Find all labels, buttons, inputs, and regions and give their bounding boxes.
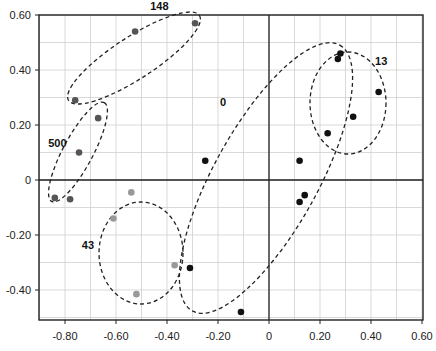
data-point-13 (350, 113, 357, 120)
group-label-148: 148 (150, 0, 168, 12)
data-point-13 (324, 130, 331, 137)
x-tick-label: -0.40 (154, 330, 179, 342)
x-tick-label: -0.20 (205, 330, 230, 342)
data-point-0 (296, 157, 303, 164)
data-point-500 (76, 149, 83, 156)
data-point-43 (171, 262, 178, 269)
x-tick-label: 0.40 (360, 330, 381, 342)
data-point-500 (67, 196, 74, 203)
y-tick-label: -0.20 (6, 229, 31, 241)
data-point-13 (375, 89, 382, 96)
data-point-148 (192, 20, 199, 27)
cluster-outline-148 (57, 0, 211, 118)
data-point-0 (296, 199, 303, 206)
x-tick-label: 0 (266, 330, 272, 342)
cluster-outline-13 (310, 52, 386, 154)
y-tick-label: 0.20 (10, 119, 31, 131)
data-point-0 (187, 265, 194, 272)
grid-lines (39, 15, 423, 320)
group-label-500: 500 (48, 137, 66, 149)
y-tick-label: -0.40 (6, 284, 31, 296)
cluster-outline-0 (147, 20, 385, 336)
data-point-0 (202, 157, 209, 164)
group-label-0: 0 (220, 96, 226, 108)
x-tick-label: 0.20 (309, 330, 330, 342)
data-point-43 (133, 291, 140, 298)
y-tick-label: 0 (25, 174, 31, 186)
data-point-500 (52, 195, 59, 202)
group-label-13: 13 (375, 55, 387, 67)
x-tick-label: -0.60 (103, 330, 128, 342)
plot-frame (39, 15, 423, 320)
data-point-13 (337, 50, 344, 57)
data-point-148 (132, 28, 139, 35)
axis-ticks: -0.80-0.60-0.40-0.2000.200.400.600.600.4… (6, 9, 433, 342)
data-point-0 (238, 309, 245, 316)
x-tick-label: 0.60 (411, 330, 432, 342)
data-point-148 (72, 97, 79, 104)
data-point-500 (95, 115, 102, 122)
y-tick-label: 0.60 (10, 9, 31, 21)
data-point-43 (110, 215, 117, 222)
y-tick-label: 0.40 (10, 64, 31, 76)
group-label-43: 43 (82, 239, 94, 251)
x-tick-label: -0.80 (52, 330, 77, 342)
data-point-0 (301, 192, 308, 199)
scatter-chart: -0.80-0.60-0.40-0.2000.200.400.600.600.4… (0, 0, 436, 351)
data-point-43 (128, 189, 135, 196)
